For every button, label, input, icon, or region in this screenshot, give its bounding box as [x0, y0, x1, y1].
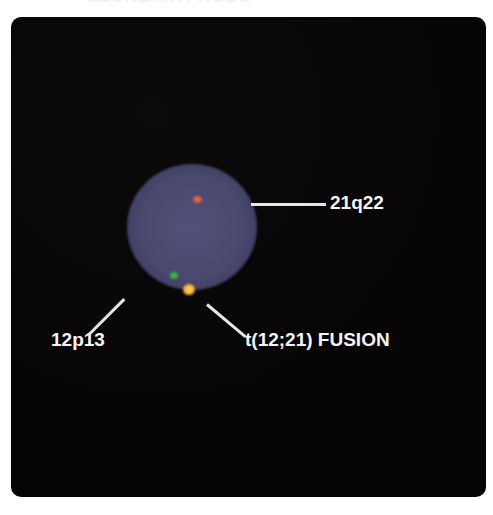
leader-line-21q22: [251, 203, 326, 206]
label-21q22: 21q22: [330, 192, 384, 214]
green-signal-12p13: [170, 272, 178, 279]
label-fusion: t(12;21) FUSION: [245, 329, 390, 351]
fish-image-panel: 21q22 12p13 t(12;21) FUSION: [11, 17, 486, 497]
cell-nucleus: [127, 164, 257, 290]
fusion-signal: [183, 284, 195, 295]
leader-line-fusion: [206, 303, 246, 337]
clipped-figure-title: LEUKEMIA PROBE: [88, 0, 358, 6]
label-12p13: 12p13: [51, 329, 105, 351]
red-signal-21q22: [193, 196, 202, 203]
